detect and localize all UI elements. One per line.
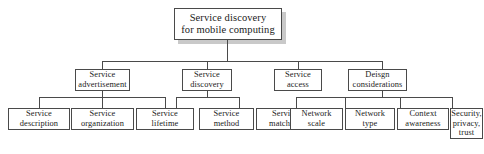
node-deisgn-considerations-label: Deisgn considerations: [351, 70, 405, 90]
connector-groupB-stub-2: [239, 97, 240, 108]
node-context-awareness-label: Context awareness: [403, 109, 442, 129]
node-service-access: Service access: [274, 69, 322, 91]
node-service-method-label: Service method: [212, 109, 242, 129]
node-service-organization: Service organization: [71, 108, 134, 130]
connector-groupD-stub-4: [452, 97, 453, 108]
connector-groupB-stub-1: [176, 97, 177, 108]
connector-groupD-stub-2: [345, 97, 346, 108]
connector-groupA-stub-1: [39, 97, 40, 108]
node-service-description: Service description: [8, 108, 70, 130]
connector-groupA-stub-2: [102, 97, 103, 108]
connector-groupD-stub-1: [296, 97, 297, 108]
node-network-scale: Network scale: [290, 108, 343, 130]
node-service-access-label: Service access: [283, 70, 313, 90]
node-service-description-label: Service description: [18, 109, 60, 129]
connector-groupD-bus: [296, 97, 452, 98]
node-service-discovery: Service discovery: [182, 69, 232, 91]
connector-root-drop: [227, 40, 228, 62]
node-service-method: Service method: [199, 108, 254, 130]
node-service-discovery-label: Service discovery: [188, 70, 225, 90]
node-network-type-label: Network type: [353, 109, 387, 129]
connector-groupB-bus: [176, 97, 239, 98]
node-service-advertisement-label: Service advertisement: [76, 70, 128, 90]
connector-level2-stub-2: [207, 61, 208, 69]
service-discovery-tree-diagram: Service discovery for mobile computing S…: [0, 0, 484, 154]
node-network-type: Network type: [345, 108, 395, 130]
connector-level2-stub-4: [382, 61, 383, 69]
node-security-privacy-trust: Security, privacy, trust: [450, 108, 483, 139]
node-deisgn-considerations: Deisgn considerations: [348, 69, 407, 91]
connector-groupD-stub-3: [400, 97, 401, 108]
node-root-label: Service discovery for mobile computing: [179, 12, 277, 37]
node-service-organization-label: Service organization: [79, 109, 126, 129]
node-service-lifetime-label: Service lifetime: [150, 109, 181, 129]
node-root: Service discovery for mobile computing: [174, 8, 282, 40]
node-context-awareness: Context awareness: [397, 108, 449, 130]
connector-level2-bus: [102, 61, 382, 62]
node-service-lifetime: Service lifetime: [136, 108, 194, 130]
node-network-scale-label: Network scale: [299, 109, 333, 129]
connector-level2-stub-3: [298, 61, 299, 69]
node-security-privacy-trust-label: Security, privacy, trust: [449, 109, 483, 139]
node-service-advertisement: Service advertisement: [75, 69, 130, 91]
connector-groupA-stub-3: [165, 97, 166, 108]
connector-level2-stub-1: [102, 61, 103, 69]
